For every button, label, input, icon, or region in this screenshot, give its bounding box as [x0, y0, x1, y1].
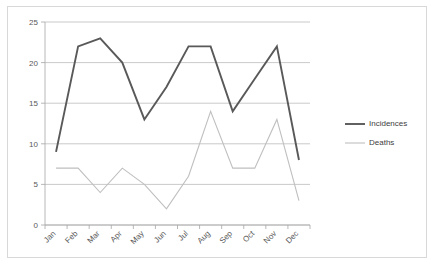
y-tick-label: 20: [29, 59, 38, 68]
ytick-labels-group: 0510152025: [29, 18, 45, 230]
x-tick-label: Jul: [176, 229, 190, 243]
x-tick-label: Oct: [241, 229, 257, 245]
y-tick-label: 5: [34, 180, 39, 189]
series-group: [56, 38, 299, 209]
y-tick-label: 25: [29, 18, 38, 27]
legend-label-deaths: Deaths: [369, 138, 394, 147]
y-tick-label: 10: [29, 140, 38, 149]
x-tick-label: Jun: [152, 229, 167, 244]
legend: IncidencesDeaths: [345, 119, 407, 147]
x-tick-label: Jan: [42, 229, 57, 244]
x-tick-label: Dec: [284, 229, 300, 245]
xtickmarks-group: [45, 225, 310, 229]
gridlines-group: [45, 22, 310, 225]
x-tick-label: Sep: [218, 229, 235, 246]
x-tick-label: Nov: [262, 229, 278, 245]
axis-group: [45, 22, 310, 225]
chart-container: 0510152025 JanFebMarAprMayJunJulAugSepOc…: [0, 0, 435, 270]
x-tick-label: Aug: [196, 229, 212, 245]
xtick-labels-group: JanFebMarAprMayJunJulAugSepOctNovDec: [42, 229, 300, 247]
x-tick-label: May: [129, 229, 146, 246]
legend-label-incidences: Incidences: [369, 119, 407, 128]
line-chart: 0510152025 JanFebMarAprMayJunJulAugSepOc…: [0, 0, 435, 270]
x-tick-label: Apr: [109, 229, 124, 244]
series-line-incidences: [56, 38, 299, 160]
y-tick-label: 0: [34, 221, 39, 230]
x-tick-label: Mar: [86, 229, 102, 245]
x-tick-label: Feb: [63, 229, 80, 246]
series-line-deaths: [56, 111, 299, 208]
y-tick-label: 15: [29, 99, 38, 108]
